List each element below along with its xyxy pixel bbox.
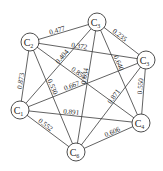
node-C4: C3: [137, 51, 155, 69]
edge-weight-label: 0.550: [136, 77, 145, 94]
edge-weight-label: 0.667: [63, 79, 81, 93]
edge-weight-label: 0.404: [54, 48, 71, 66]
node-C6: C6: [67, 143, 85, 161]
nodes-layer: C1C2C3C3C4C6: [11, 13, 155, 161]
edge-weight-label: 0.552: [37, 117, 55, 133]
node-C1: C1: [11, 101, 29, 119]
edge-weight-label: 0.530: [45, 78, 59, 96]
node-C5: C4: [132, 114, 150, 132]
edge-C2-C4: [30, 42, 146, 60]
edge-weight-label: 0.235: [111, 27, 129, 43]
edge-weight-label: 0.606: [103, 125, 121, 139]
weighted-graph-diagram: 0.4770.3720.2350.6400.6340.4040.8730.667…: [0, 0, 163, 171]
edge-weight-label: 0.477: [48, 24, 66, 36]
edge-weight-label: 0.873: [16, 72, 26, 90]
node-C2: C2: [21, 33, 39, 51]
node-C3: C3: [88, 13, 106, 31]
edge-weight-label: 0.891: [63, 107, 80, 117]
edge-weight-label: 0.372: [71, 41, 89, 51]
edge-weight-label: 0.871: [106, 88, 122, 106]
